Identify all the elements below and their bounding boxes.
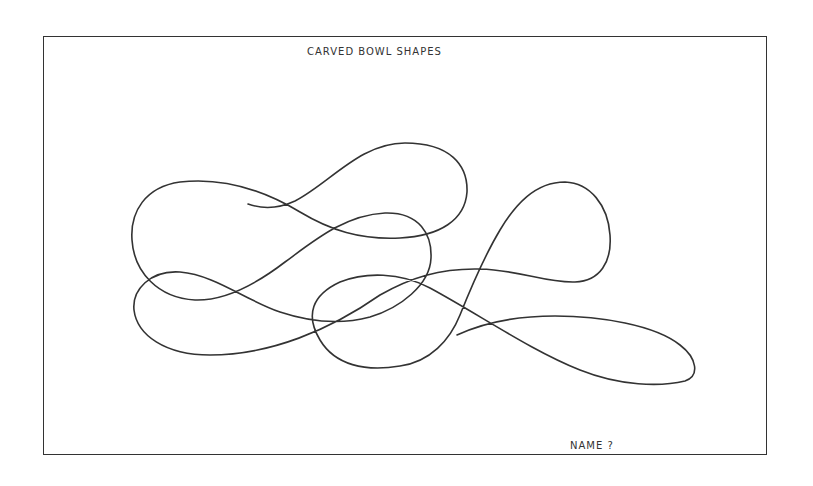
continuous-curve	[132, 143, 695, 384]
carved-bowl-curve-drawing	[0, 0, 813, 486]
